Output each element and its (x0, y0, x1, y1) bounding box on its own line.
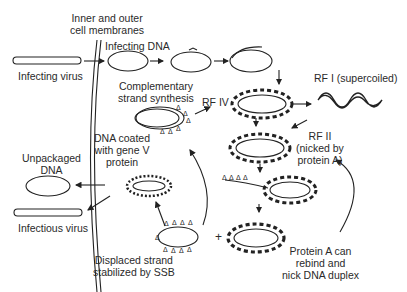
membranes-label: Inner and outer cell membranes (70, 12, 144, 36)
rf1-supercoiled (318, 93, 382, 108)
infecting-virus-label: Infecting virus (18, 70, 83, 82)
rf2-label: RF II (nicked by protein A) (296, 130, 344, 166)
dna-coated-line1: DNA coated (94, 132, 150, 144)
rf2-line2: (nicked by (296, 142, 344, 154)
displaced-strand-circle (158, 227, 198, 247)
svg-text:Δ: Δ (179, 247, 184, 254)
svg-text:Δ: Δ (172, 219, 177, 226)
svg-text:Δ: Δ (229, 174, 234, 181)
membranes-line1: Inner and outer (70, 12, 144, 24)
plus-sign: + (215, 231, 222, 243)
infecting-virus-rod (13, 57, 81, 64)
protein-a-line2: rebind and (282, 257, 359, 269)
rf2-nicked (230, 134, 290, 162)
displaced-line2: stabilized by SSB (93, 266, 175, 278)
svg-text:Δ: Δ (236, 174, 241, 181)
dna-coated-label: DNA coated with gene V protein (94, 132, 150, 168)
rf1-label: RF I (supercoiled) (314, 72, 397, 84)
gene-v-coated-dna (127, 176, 171, 196)
svg-text:Δ: Δ (176, 104, 181, 111)
svg-text:Δ: Δ (187, 246, 192, 253)
unpackaged-label: Unpackaged DNA (22, 152, 81, 176)
rf4-loopy (232, 90, 292, 118)
rf2-line3: protein A) (296, 154, 344, 166)
protein-a-label: Protein A can rebind and nick DNA duplex (282, 245, 359, 281)
svg-text:Δ: Δ (243, 174, 248, 181)
svg-text:Δ: Δ (155, 234, 160, 241)
svg-text:Δ: Δ (164, 220, 169, 227)
svg-text:Δ: Δ (176, 125, 181, 132)
rf2-line1: RF II (296, 130, 344, 142)
complementary-label: Complementary strand synthesis (118, 80, 194, 104)
unpackaged-line1: Unpackaged (22, 152, 81, 164)
svg-text:Δ: Δ (160, 128, 165, 135)
svg-text:Δ: Δ (180, 219, 185, 226)
svg-text:Δ: Δ (183, 110, 188, 117)
svg-text:Δ: Δ (163, 246, 168, 253)
protein-a-line1: Protein A can (282, 245, 359, 257)
displaced-label: Displaced strand stabilized by SSB (93, 254, 175, 278)
complementary-line1: Complementary (118, 80, 194, 92)
svg-text:Δ: Δ (186, 117, 191, 124)
protein-a-line3: nick DNA duplex (282, 269, 359, 281)
membranes-line2: cell membranes (70, 24, 144, 36)
svg-text:Δ: Δ (171, 247, 176, 254)
rf4-label: RF IV (202, 96, 229, 108)
unpackaged-line2: DNA (22, 164, 81, 176)
infectious-virus-rod (14, 209, 82, 216)
svg-text:Δ: Δ (222, 174, 227, 181)
displaced-line1: Displaced strand (93, 254, 175, 266)
infecting-dna-circle (108, 51, 148, 71)
infecting-dna-label: Infecting DNA (105, 40, 170, 52)
dna-coated-line2: with gene V (94, 144, 150, 156)
dna-coated-line3: protein (94, 156, 150, 168)
svg-text:Δ: Δ (188, 219, 193, 226)
infectious-virus-label: Infectious virus (18, 222, 88, 234)
complementary-line2: strand synthesis (118, 92, 194, 104)
svg-text:Δ: Δ (168, 128, 173, 135)
unpackaged-dna-circle (26, 176, 70, 196)
